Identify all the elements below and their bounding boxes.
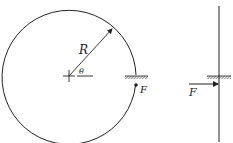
- circle-figure: R θ F: [2, 10, 148, 143]
- force-point: [134, 83, 138, 87]
- radius-arrow: [69, 29, 112, 76]
- hatched-support-right: [207, 76, 231, 79]
- angle-label: θ: [79, 67, 84, 76]
- force-label-right: F: [188, 86, 197, 99]
- radius-label: R: [78, 43, 88, 57]
- rod-figure: F: [188, 6, 231, 142]
- force-label-left: F: [139, 84, 148, 95]
- hatched-support: [125, 76, 148, 79]
